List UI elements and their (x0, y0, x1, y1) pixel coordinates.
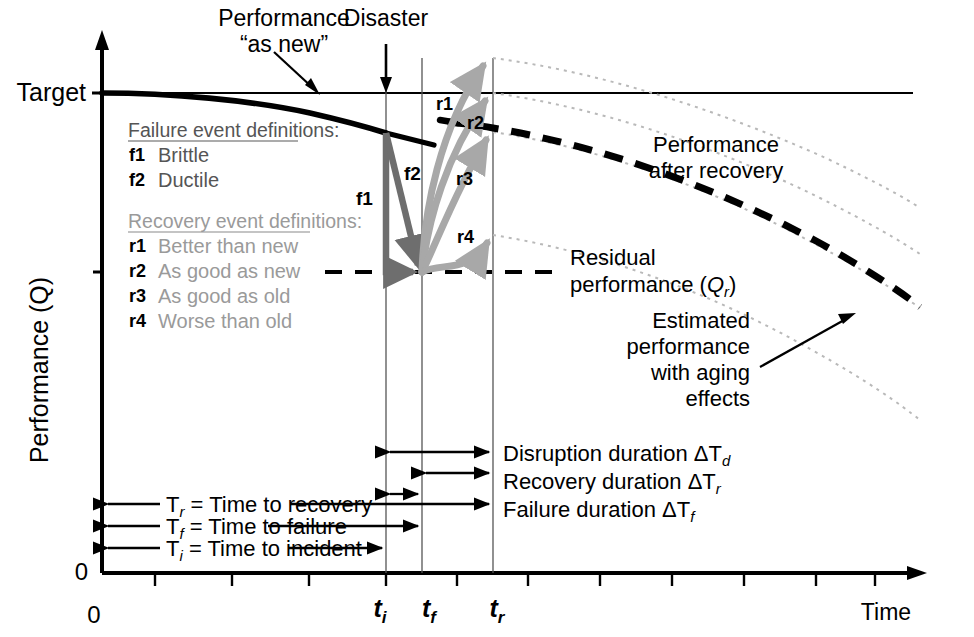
aging-label-line4: effects (686, 386, 750, 411)
y-axis-label: Performance (Q) (25, 277, 53, 463)
performance-as-new-label-line1: Performance (218, 5, 350, 31)
failure-legend-heading: Failure event definitions: (128, 119, 339, 141)
failure-legend-key-f2: f2 (129, 170, 145, 190)
curve-label-f1: f1 (356, 188, 373, 209)
curve-label-r4: r4 (457, 227, 474, 247)
performance-as-new-label-line2: “as new” (240, 31, 328, 57)
x-axis-arrowhead (907, 566, 927, 580)
failure-paths-group (386, 133, 418, 272)
aging-label-line2: performance (626, 334, 750, 359)
curve-label-f2: f2 (404, 163, 421, 184)
recovery-legend-key-r1: r1 (129, 236, 146, 256)
time-to-incident-label: Ti = Time to incident (166, 536, 362, 564)
y-axis-origin-label: 0 (75, 558, 88, 585)
x-tick-label-tr: tr (490, 594, 506, 627)
x-axis-origin-label: 0 (87, 601, 100, 628)
performance-as-new-continuation (386, 133, 434, 145)
disruption-duration-label: Disruption duration ΔTd (503, 441, 731, 469)
resilience-diagram-svg: Performance (Q) Target 0 0 Time ti tf tr… (0, 0, 974, 637)
performance-after-recovery-label-line2: after recovery (649, 158, 784, 183)
failure-legend-label-f1: Brittle (158, 144, 209, 166)
recovery-legend-key-r2: r2 (129, 261, 146, 281)
recovery-legend-label-r3: As good as old (158, 285, 290, 307)
recovery-legend-heading: Recovery event definitions: (128, 210, 362, 232)
duration-arrows-group (390, 452, 489, 494)
aging-label-line1: Estimated (652, 308, 750, 333)
failure-legend-key-f1: f1 (129, 145, 145, 165)
x-axis-label: Time (861, 599, 911, 625)
aging-leader-line (760, 319, 846, 367)
curve-label-r2: r2 (467, 113, 484, 133)
curve-label-r3: r3 (456, 169, 473, 189)
performance-after-recovery-label-line1: Performance (653, 132, 779, 157)
aging-label-line3: with aging (650, 360, 750, 385)
failure-duration-label: Failure duration ΔTf (503, 497, 696, 525)
recovery-legend-key-r4: r4 (129, 311, 146, 331)
recovery-legend-label-r4: Worse than old (158, 310, 292, 332)
failure-legend-label-f2: Ductile (158, 169, 219, 191)
residual-label-line2: performance (Qr) (570, 272, 736, 300)
recovery-legend-key-r3: r3 (129, 286, 146, 306)
disaster-label: Disaster (344, 5, 429, 31)
curve-label-r1: r1 (436, 94, 453, 114)
recovery-paths-group (422, 66, 487, 272)
figure-canvas: Performance (Q) Target 0 0 Time ti tf tr… (0, 0, 974, 637)
recovery-legend-label-r1: Better than new (158, 235, 299, 257)
x-tick-labels-group: ti tf tr (373, 594, 505, 627)
y-axis-arrowhead (95, 30, 109, 50)
y-axis-target-label: Target (17, 78, 87, 106)
disaster-pointer-arrowhead (380, 77, 392, 93)
failure-path-f2-ductile (386, 133, 418, 265)
x-tick-label-tf: tf (422, 594, 438, 627)
residual-label-line1: Residual (570, 245, 656, 270)
recovery-duration-label: Recovery duration ΔTr (503, 469, 722, 497)
recovery-legend-label-r2: As good as new (158, 260, 301, 282)
x-tick-label-ti: ti (373, 594, 387, 627)
